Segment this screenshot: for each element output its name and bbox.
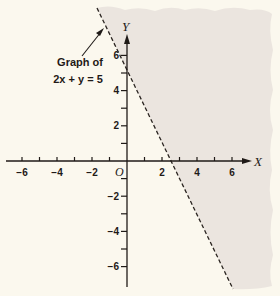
- y-tick-label-m2: −2: [108, 191, 120, 202]
- x-tick-label-4: 4: [194, 167, 200, 178]
- shaded-region: [97, 6, 273, 289]
- x-tick-label-m4: −4: [51, 167, 63, 178]
- annotation-line-2: 2x + y = 5: [53, 73, 103, 85]
- graph-canvas: −6 −4 −2 2 4 6 6 4 2 −2 −4 −6 X Y O Grap…: [0, 0, 280, 296]
- annotation-arrowhead-icon: [96, 28, 104, 36]
- annotation-arrow: [82, 32, 101, 56]
- origin-label: O: [115, 165, 124, 179]
- y-tick-label-m4: −4: [108, 226, 120, 237]
- y-tick-label-m6: −6: [108, 261, 120, 272]
- y-tick-label-2: 2: [113, 120, 119, 131]
- x-tick-label-2: 2: [159, 167, 165, 178]
- x-tick-label-m6: −6: [16, 167, 28, 178]
- x-axis-label: X: [253, 154, 263, 169]
- x-tick-label-6: 6: [229, 167, 235, 178]
- y-tick-label-4: 4: [113, 85, 119, 96]
- annotation-line-1: Graph of: [57, 56, 103, 68]
- y-tick-label-6: 6: [113, 50, 119, 61]
- x-tick-label-m2: −2: [86, 167, 98, 178]
